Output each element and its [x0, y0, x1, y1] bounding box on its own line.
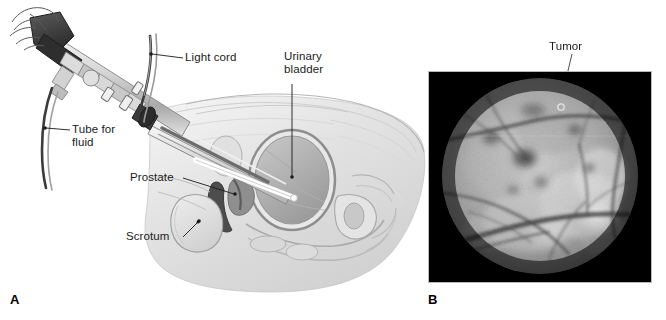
- label-scrotum: Scrotum: [126, 230, 170, 243]
- panel-letter-b: B: [428, 292, 437, 307]
- panel-letter-a: A: [10, 292, 19, 307]
- label-light-cord: Light cord: [185, 51, 237, 64]
- endoscope-view-svg: [429, 72, 651, 282]
- medical-figure: Light cord Urinary bladder Tube for flui…: [0, 0, 666, 320]
- cystoscope-body: [30, 12, 190, 136]
- label-tube-for-fluid: Tube for fluid: [72, 123, 115, 149]
- fluid-tube-cable: [42, 88, 58, 190]
- label-tumor: Tumor: [549, 40, 582, 53]
- label-prostate: Prostate: [130, 171, 174, 184]
- label-urinary-bladder: Urinary bladder: [284, 50, 323, 76]
- cystoscopic-photograph: [428, 71, 652, 283]
